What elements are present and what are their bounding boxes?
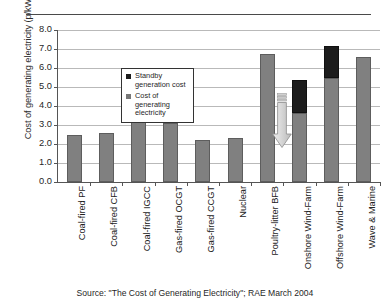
y-axis-tick-label: 4.0 (39, 101, 52, 110)
bar (195, 140, 210, 182)
plot-area: 8.07.06.05.04.03.02.01.00.0 Standby gene… (57, 30, 380, 183)
legend-swatch-standby-icon (126, 74, 131, 79)
bar-segment-cost (356, 57, 371, 182)
bar-segment-cost (292, 113, 307, 182)
y-axis-tick-label: 5.0 (39, 82, 52, 91)
x-axis-labels: Coal-fired PFCoal-fired CFBCoal-fired IG… (57, 186, 379, 282)
legend-label-cost: Cost of generating electricity (135, 92, 189, 118)
legend-swatch-cost-icon (126, 94, 131, 99)
bar-segment-cost (228, 138, 243, 182)
y-axis-tick-label: 6.0 (39, 63, 52, 72)
y-axis-tick-label: 2.0 (39, 139, 52, 148)
legend-item-cost: Cost of generating electricity (126, 92, 189, 118)
x-axis-category-label: Coal-fired CFB (109, 186, 119, 247)
bar-segment-cost (99, 133, 114, 182)
x-axis-tick-mark (380, 182, 381, 186)
bar-slot (219, 30, 251, 182)
legend-label-standby: Standby generation cost (135, 72, 189, 89)
x-axis-category-label: Gas-fired CCGT (206, 186, 216, 252)
bar-segment-standby (292, 80, 307, 112)
bar-slot (90, 30, 122, 182)
bar (99, 133, 114, 182)
bar (163, 123, 178, 182)
bar (228, 138, 243, 182)
down-arrow-annotation-icon (271, 93, 293, 151)
bar (292, 80, 307, 182)
x-axis-category-label: Onshore Wind-Farm (303, 186, 313, 269)
y-axis-tick-label: 0.0 (39, 177, 52, 186)
bar (131, 121, 146, 182)
bar-segment-cost (324, 78, 339, 183)
bar-segment-cost (67, 135, 82, 183)
y-axis-tick-label: 7.0 (39, 44, 52, 53)
chart-figure: Cost of generating electricity (p/kWh) 8… (0, 0, 390, 306)
x-axis-category-label: Offshore Wind-Farm (335, 186, 345, 269)
bar-segment-cost (131, 121, 146, 182)
bar-group (58, 30, 380, 182)
legend-item-standby: Standby generation cost (126, 72, 189, 89)
x-axis-category-label: Poultry-litter BFB (270, 186, 280, 255)
bar-slot (316, 30, 348, 182)
bar-slot (58, 30, 90, 182)
x-axis-category-label: Wave & Marine (367, 186, 377, 248)
y-axis-title: Cost of generating electricity (p/kWh) (23, 0, 33, 155)
x-axis-category-label: Coal-fired IGCC (142, 186, 152, 251)
bar (356, 57, 371, 182)
bar-segment-cost (163, 123, 178, 182)
bar (324, 46, 339, 182)
bar-slot (348, 30, 380, 182)
x-axis-category-label: Nuclear (238, 186, 248, 218)
y-axis-tick-label: 1.0 (39, 158, 52, 167)
y-axis-tick-label: 8.0 (39, 25, 52, 34)
chart-legend: Standby generation cost Cost of generati… (121, 68, 194, 123)
top-divider-rule (26, 14, 371, 15)
y-axis-tick-label: 3.0 (39, 120, 52, 129)
bar (67, 135, 82, 183)
source-caption: Source: "The Cost of Generating Electric… (0, 288, 390, 298)
x-axis-category-label: Gas-fired OCGT (174, 186, 184, 253)
x-axis-category-label: Coal-fired PF (77, 186, 87, 240)
bar-segment-standby (324, 46, 339, 77)
bar-segment-cost (195, 140, 210, 182)
y-axis-tick-mark (54, 182, 58, 183)
